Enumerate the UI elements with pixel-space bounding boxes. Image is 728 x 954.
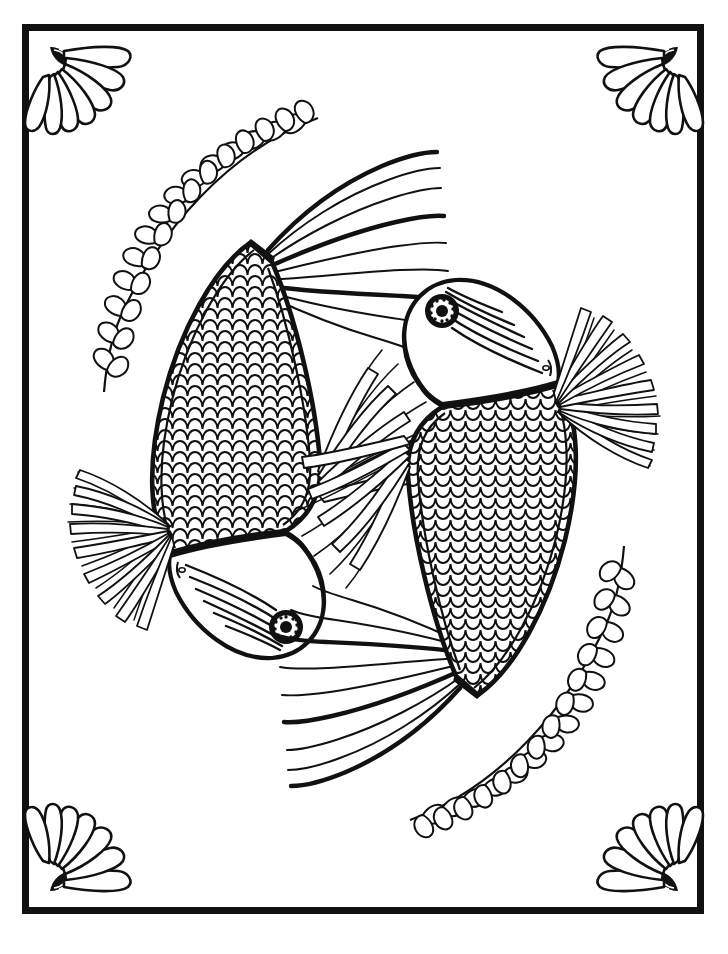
artwork-canvas	[0, 0, 728, 954]
coloring-page	[0, 0, 728, 954]
